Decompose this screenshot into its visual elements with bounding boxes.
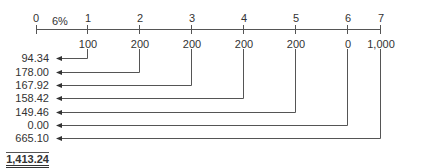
cash-flow-7: 1,000: [367, 38, 395, 50]
discount-path-3: [62, 49, 192, 86]
present-value-5: 149.46: [15, 106, 49, 118]
period-label-2: 2: [137, 12, 143, 24]
period-label-5: 5: [293, 12, 299, 24]
interest-rate-label: 6%: [52, 15, 68, 27]
cash-flow-1: 100: [79, 38, 97, 50]
period-label-7: 7: [378, 12, 384, 24]
present-values-column: 94.34 178.00 167.92 158.42 149.46 0.00 6…: [0, 0, 49, 168]
arrow-head-icon: [56, 136, 62, 141]
present-value-6: 0.00: [28, 119, 49, 131]
arrow-head-icon: [56, 123, 62, 128]
arrow-head-icon: [56, 83, 62, 88]
present-value-1: 94.34: [21, 52, 49, 64]
discount-path-2: [62, 49, 140, 73]
cash-flow-4: 200: [235, 38, 253, 50]
cash-flow-6: 0: [345, 38, 351, 50]
discount-path-5: [62, 49, 296, 113]
arrow-head-icon: [56, 96, 62, 101]
period-label-1: 1: [85, 12, 91, 24]
cash-flow-5: 200: [287, 38, 305, 50]
period-label-4: 4: [241, 12, 247, 24]
arrow-head-icon: [56, 110, 62, 115]
arrow-head-icon: [56, 70, 62, 75]
period-label-6: 6: [345, 12, 351, 24]
period-label-3: 3: [189, 12, 195, 24]
present-value-3: 167.92: [15, 79, 49, 91]
total-present-value: 1,413.24: [6, 152, 49, 168]
total-row: 1,413.24: [6, 149, 49, 168]
cash-flow-2: 200: [131, 38, 149, 50]
present-value-2: 178.00: [15, 66, 49, 78]
discount-path-1: [62, 49, 88, 59]
arrow-head-icon: [56, 56, 62, 61]
discount-path-6: [62, 49, 348, 126]
present-value-7: 665.10: [15, 132, 49, 144]
present-value-4: 158.42: [15, 92, 49, 104]
discount-path-4: [62, 49, 244, 99]
cash-flow-3: 200: [183, 38, 201, 50]
